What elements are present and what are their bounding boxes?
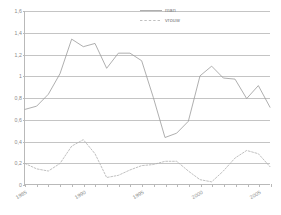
x-axis-tick-mark	[142, 184, 143, 187]
legend-label-man: man	[165, 7, 176, 13]
x-axis-tick-mark	[130, 184, 131, 187]
x-axis-tick-mark	[72, 184, 73, 187]
y-axis-tick-label: 0,6	[14, 117, 22, 123]
chart-legend: man vrouw	[140, 6, 180, 24]
x-axis-tick-mark	[271, 184, 272, 187]
x-axis-tick-label: 1990	[73, 189, 86, 200]
legend-item-man: man	[140, 6, 180, 14]
x-axis-tick-label: 1995	[132, 189, 145, 200]
legend-swatch-solid-icon	[140, 8, 162, 13]
x-axis-tick-mark	[154, 184, 155, 187]
legend-swatch-dashed-icon	[140, 18, 162, 23]
y-axis-tick-label: 0,4	[14, 139, 22, 145]
x-axis-tick-mark	[37, 184, 38, 187]
y-axis-tick-label: 1,2	[14, 52, 22, 58]
x-axis-tick-mark	[107, 184, 108, 187]
x-axis-tick-mark	[119, 184, 120, 187]
x-axis-tick-mark	[166, 184, 167, 187]
y-axis-tick-label: 1	[19, 73, 22, 79]
x-axis-tick-mark	[48, 184, 49, 187]
y-axis-tick-label: 1,6	[14, 8, 22, 14]
x-axis-tick-label: 1985	[15, 189, 28, 200]
y-axis-tick-label: 0,2	[14, 160, 22, 166]
x-axis-tick-mark	[224, 184, 225, 187]
legend-label-vrouw: vrouw	[165, 17, 180, 23]
series-line-vrouw	[25, 140, 270, 182]
x-axis-tick-label: 2000	[190, 189, 203, 200]
x-axis-tick-mark	[95, 184, 96, 187]
series-line-man	[25, 39, 270, 137]
series-layer	[25, 11, 270, 184]
x-axis-tick-mark	[177, 184, 178, 187]
line-chart: 00,20,40,60,811,21,41,6 1985199019952000…	[0, 0, 281, 215]
x-axis-tick-mark	[189, 184, 190, 187]
x-axis-tick-label: 2005	[249, 189, 262, 200]
y-axis-tick-label: 0,8	[14, 95, 22, 101]
x-axis-tick-mark	[201, 184, 202, 187]
plot-area: 00,20,40,60,811,21,41,6 1985199019952000…	[24, 11, 270, 185]
x-axis-tick-mark	[259, 184, 260, 187]
x-axis-tick-mark	[60, 184, 61, 187]
y-axis-tick-label: 0	[19, 182, 22, 188]
x-axis-tick-mark	[84, 184, 85, 187]
x-axis-tick-mark	[236, 184, 237, 187]
legend-item-vrouw: vrouw	[140, 16, 180, 24]
x-axis-tick-mark	[25, 184, 26, 187]
x-axis-tick-mark	[212, 184, 213, 187]
y-axis-tick-label: 1,4	[14, 30, 22, 36]
x-axis-tick-mark	[248, 184, 249, 187]
